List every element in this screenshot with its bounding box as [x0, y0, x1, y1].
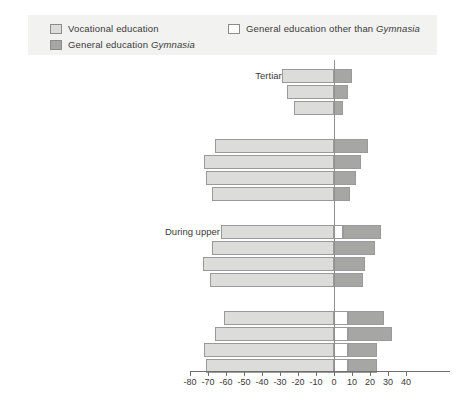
bar-segment-general-education-gymnasia	[334, 101, 343, 115]
legend-label-general-education-other: General education other than Gymnasia	[246, 23, 420, 34]
bar-segment-general-education-gymnasia	[334, 155, 361, 169]
bar-segment-vocational-education	[215, 327, 334, 341]
bar-segment-vocational-education	[204, 155, 334, 169]
bar-segment-vocational-education	[210, 273, 334, 287]
bar-group: During upper secondary education 1993199…	[0, 224, 465, 288]
x-axis-tick-label: -30	[273, 377, 286, 387]
bar-row: First entry 1993	[0, 310, 465, 326]
x-axis-tick	[316, 372, 317, 376]
bar-segment-vocational-education	[212, 187, 334, 201]
bar-segment-general-education-gymnasia	[334, 171, 356, 185]
x-axis-tick-label: 40	[401, 377, 411, 387]
x-axis-tick	[208, 372, 209, 376]
bar-segment-vocational-education	[215, 139, 334, 153]
chart-legend: Vocational education General education G…	[28, 15, 437, 55]
bar-row: During upper secondary education 1993	[0, 224, 465, 240]
bar-segment-general-education-other	[334, 311, 348, 325]
legend-label-general-education-gymnasia: General education Gymnasia	[68, 39, 195, 50]
bar-row: 1990	[0, 84, 465, 100]
bar-segment-general-education-gymnasia	[348, 327, 391, 341]
x-axis-tick-label: -10	[309, 377, 322, 387]
x-axis-tick-label: -40	[255, 377, 268, 387]
bar-row: 1985	[0, 256, 465, 272]
bar-row: 1980	[0, 186, 465, 202]
x-axis-tick-label: 0	[331, 377, 336, 387]
bar-segment-general-education-gymnasia	[348, 343, 377, 357]
x-axis-tick	[190, 372, 191, 376]
bar-segment-general-education-other	[334, 225, 343, 239]
x-axis-tick-label: -50	[237, 377, 250, 387]
bar-segment-general-education-gymnasia	[334, 273, 363, 287]
bar-group: First entry 1993199019851980	[0, 310, 465, 374]
bar-segment-general-education-gymnasia	[334, 69, 352, 83]
bar-segment-general-education-gymnasia	[334, 85, 348, 99]
bar-segment-general-education-other	[334, 343, 348, 357]
bar-row: 1990	[0, 326, 465, 342]
bar-segment-general-education-gymnasia	[334, 139, 368, 153]
bar-segment-general-education-gymnasia	[334, 241, 375, 255]
bar-segment-general-education-gymnasia	[348, 311, 384, 325]
bar-segment-vocational-education	[212, 241, 334, 255]
bar-row: 1985	[0, 170, 465, 186]
x-axis-tick-label: -70	[201, 377, 214, 387]
x-axis-tick	[262, 372, 263, 376]
bar-segment-vocational-education	[294, 101, 334, 115]
bar-segment-general-education-gymnasia	[334, 257, 365, 271]
legend-label-vocational-education: Vocational education	[68, 23, 159, 34]
chart-plot-area: Tertiary entry 199319901987Graduation 19…	[0, 60, 465, 403]
legend-item-general-education-other: General education other than Gymnasia	[228, 23, 420, 34]
legend-swatch-general-education-gymnasia	[50, 40, 62, 50]
legend-swatch-vocational-education	[50, 24, 62, 34]
x-axis-tick-label: -20	[291, 377, 304, 387]
bar-segment-vocational-education	[203, 257, 334, 271]
x-axis-tick-label: 10	[347, 377, 357, 387]
legend-item-vocational-education: Vocational education	[50, 23, 159, 34]
x-axis-line	[190, 371, 450, 372]
bar-segment-general-education-gymnasia	[334, 187, 350, 201]
x-axis-tick-label: -80	[183, 377, 196, 387]
bar-segment-vocational-education	[206, 171, 334, 185]
x-axis-tick	[244, 372, 245, 376]
x-axis-tick	[226, 372, 227, 376]
bar-row: 1980	[0, 272, 465, 288]
bar-row: Tertiary entry 1993	[0, 68, 465, 84]
x-axis-tick	[334, 372, 335, 376]
bar-row: 1990	[0, 240, 465, 256]
x-axis-tick	[388, 372, 389, 376]
x-axis-tick-label: 20	[365, 377, 375, 387]
legend-swatch-general-education-other	[228, 24, 240, 34]
bar-row: 1987	[0, 100, 465, 116]
x-axis-tick	[370, 372, 371, 376]
bar-segment-vocational-education	[224, 311, 334, 325]
x-axis-tick-label: 30	[383, 377, 393, 387]
x-axis-tick	[352, 372, 353, 376]
legend-item-general-education-gymnasia: General education Gymnasia	[50, 39, 195, 50]
bar-segment-general-education-other	[334, 327, 348, 341]
bar-segment-vocational-education	[282, 69, 334, 83]
zero-axis-line	[334, 60, 335, 372]
x-axis-tick	[406, 372, 407, 376]
bar-row: 1985	[0, 342, 465, 358]
bar-group: Graduation 1993199019851980	[0, 138, 465, 202]
x-axis-tick	[298, 372, 299, 376]
bar-segment-general-education-gymnasia	[343, 225, 381, 239]
bar-group: Tertiary entry 199319901987	[0, 68, 465, 116]
bar-segment-vocational-education	[204, 343, 334, 357]
bar-segment-vocational-education	[287, 85, 334, 99]
bar-row: 1990	[0, 154, 465, 170]
bar-segment-vocational-education	[221, 225, 334, 239]
x-axis-tick-label: -60	[219, 377, 232, 387]
x-axis-tick	[280, 372, 281, 376]
bar-row: Graduation 1993	[0, 138, 465, 154]
